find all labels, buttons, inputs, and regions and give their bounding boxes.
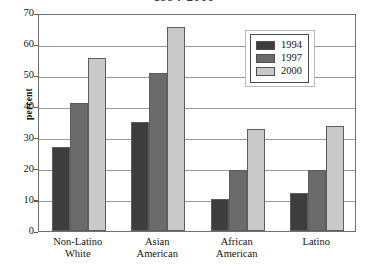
y-axis-tick-label: 70	[0, 8, 34, 19]
legend-item-label: 1994	[281, 40, 302, 51]
x-axis-category-label: AsianAmerican	[118, 236, 198, 259]
legend-swatch-icon	[256, 41, 275, 50]
y-axis-tick-mark	[34, 45, 38, 46]
y-axis-tick-label: 40	[0, 101, 34, 112]
y-axis-tick-mark	[34, 76, 38, 77]
y-axis-tick-label: 50	[0, 70, 34, 81]
x-axis-category-line: Asian	[118, 236, 198, 248]
chart-legend: 199419972000	[245, 30, 315, 87]
bar-1997-asian-american	[149, 73, 167, 231]
y-axis-tick-label: 10	[0, 195, 34, 206]
bar-1997-non-latino-white	[70, 103, 88, 231]
x-axis-category-label: Latino	[277, 236, 357, 248]
legend-item-label: 2000	[281, 66, 302, 77]
legend-swatch-icon	[256, 67, 275, 76]
y-axis-tick-mark	[34, 232, 38, 233]
y-axis-tick-mark	[34, 138, 38, 139]
bar-2000-latino	[326, 126, 344, 231]
y-axis-tick-label: 0	[0, 226, 34, 237]
bar-2000-non-latino-white	[88, 58, 106, 231]
legend-swatch-icon	[256, 54, 275, 63]
x-axis-category-label: AfricanAmerican	[197, 236, 277, 259]
legend-item-1994[interactable]: 1994	[256, 39, 302, 52]
x-axis-category-label: Non-LatinoWhite	[38, 236, 118, 259]
y-axis-tick-label: 20	[0, 164, 34, 175]
bar-2000-african-american	[247, 129, 265, 231]
bar-1994-latino	[290, 193, 308, 231]
chart-legend-inner: 199419972000	[250, 34, 309, 83]
x-axis-category-line: Non-Latino	[38, 236, 118, 248]
y-axis-tick-label: 30	[0, 133, 34, 144]
y-axis-tick-mark	[34, 169, 38, 170]
x-axis-category-line: American	[197, 248, 277, 260]
legend-item-2000[interactable]: 2000	[256, 65, 302, 78]
y-axis-tick-mark	[34, 107, 38, 108]
bar-1997-african-american	[229, 170, 247, 231]
bar-1994-african-american	[211, 199, 229, 231]
x-axis-category-line: Latino	[277, 236, 357, 248]
y-axis-tick-mark	[34, 200, 38, 201]
bar-chart-figure: 1994-2000 percent 010203040506070Non-Lat…	[0, 0, 368, 268]
x-axis-category-line: American	[118, 248, 198, 260]
chart-title: 1994-2000	[0, 0, 368, 5]
x-axis-category-line: African	[197, 236, 277, 248]
x-axis-category-line: White	[38, 248, 118, 260]
bar-1994-asian-american	[131, 122, 149, 231]
bar-1997-latino	[308, 170, 326, 231]
legend-item-1997[interactable]: 1997	[256, 52, 302, 65]
y-axis-tick-mark	[34, 14, 38, 15]
y-axis-tick-label: 60	[0, 39, 34, 50]
legend-item-label: 1997	[281, 53, 302, 64]
bar-2000-asian-american	[167, 27, 185, 231]
bar-1994-non-latino-white	[52, 147, 70, 231]
